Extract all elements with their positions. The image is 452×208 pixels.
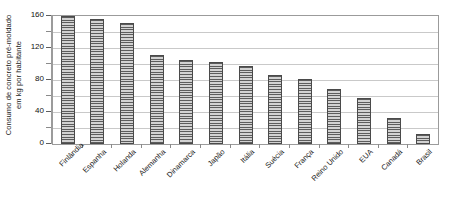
bar [416,134,430,144]
bar [120,23,134,144]
bar [239,66,253,144]
y-axis-title-line-1: Consumo de concreto pré-moldado [4,15,14,136]
bars-layer [53,16,438,144]
y-axis-tick-label: 80 [24,75,44,83]
y-axis-tick-label: 120 [24,43,44,51]
y-axis-tick-label: 160 [24,11,44,19]
y-axis-tick-labels: 04080120160 [24,0,44,208]
x-axis-category-label: Holanda [75,148,137,208]
y-axis-title: Consumo de concreto pré-moldado em kg po… [0,0,26,150]
plot-area [52,15,439,145]
x-axis-category-labels: FinlândiaEspanhaHolandaAlemanhaDinamarca… [52,148,452,208]
bar [387,118,401,144]
y-axis-tick-label: 0 [24,139,44,147]
bar [298,79,312,144]
bar [268,75,282,144]
bar [179,60,193,144]
bar [327,89,341,144]
bar [150,55,164,144]
bar [90,19,104,144]
bar-chart: Consumo de concreto pré-moldado em kg po… [0,0,452,208]
bar [61,16,75,144]
bar [357,98,371,144]
x-axis-category-label: Finlândia [58,148,78,168]
y-axis-title-line-2: em kg por habitante [13,15,23,136]
bar [209,62,223,144]
y-axis-tick-label: 40 [24,107,44,115]
